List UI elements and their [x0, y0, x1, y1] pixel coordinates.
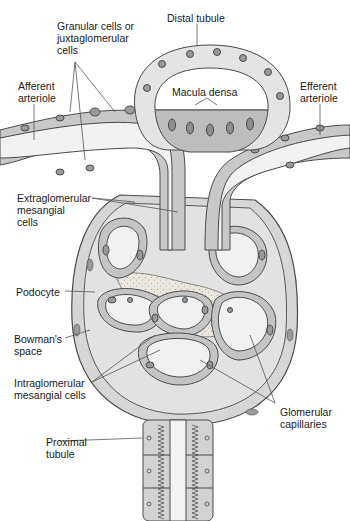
label-glomerular-capillaries: Glomerular capillaries [280, 406, 332, 430]
label-extraglomerular-mesangial-cells: Extraglomerular mesangial cells [17, 192, 91, 228]
label-intraglomerular-mesangial-cells: Intraglomerular mesangial cells [14, 377, 86, 401]
label-efferent-arteriole: Efferent arteriole [300, 80, 338, 104]
label-distal-tubule: Distal tubule [167, 12, 225, 24]
label-macula-densa: Macula densa [172, 86, 237, 98]
proximal-tubule [143, 420, 213, 521]
label-afferent-arteriole: Afferent arteriole [18, 80, 56, 104]
label-granular-cells: Granular cells or juxtaglomerular cells [57, 20, 134, 56]
distal-tubule [134, 45, 290, 152]
label-podocyte: Podocyte [16, 286, 60, 298]
label-bowmans-space: Bowman's space [14, 333, 62, 357]
label-proximal-tubule: Proximal tubule [46, 436, 87, 460]
